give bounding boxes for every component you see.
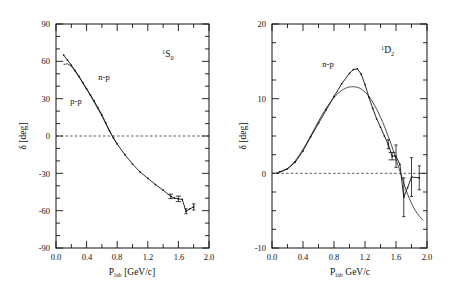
y-tick-label: 0 [46, 131, 50, 141]
chart-panel-1s0: δ [deg] 90 60 30 0 -30 -60 -90 0.0 0.4 0… [0, 0, 230, 294]
x-tick-label: 1.2 [143, 252, 154, 262]
curve-annotations-right: n-p [322, 59, 333, 69]
data-point [333, 96, 335, 98]
wave-label-sub: 2 [391, 50, 394, 57]
series-np-left [64, 55, 194, 211]
x-axis-title-sub: lab [335, 271, 343, 278]
data-point [74, 70, 76, 72]
y-tick-label: -60 [39, 206, 50, 216]
plot-svg-1d2: δ [deg] 20 10 0 -10 0.0 0.4 0.8 1.2 1.6 … [230, 0, 460, 294]
errorbars-right [387, 140, 421, 217]
figure-canvas: δ [deg] 90 60 30 0 -30 -60 -90 0.0 0.4 0… [0, 0, 460, 294]
y-axis-title-right: δ [deg] [238, 123, 248, 150]
y-tick-label: 0 [262, 169, 266, 179]
data-point [147, 177, 149, 179]
chart-panel-1d2: δ [deg] 20 10 0 -10 0.0 0.4 0.8 1.2 1.6 … [230, 0, 460, 294]
data-point [341, 83, 343, 85]
data-point [372, 108, 374, 110]
data-point [90, 94, 92, 96]
x-axis-title-sub: lab [114, 271, 122, 278]
data-point [181, 199, 183, 201]
data-point [407, 187, 409, 189]
x-tick-labels-left: 0.0 0.4 0.8 1.2 1.6 2.0 [51, 252, 215, 262]
data-point [279, 171, 281, 173]
series-np-right [280, 69, 420, 197]
x-tick-label: 1.6 [391, 252, 402, 262]
svg-text:Plab GeV/c: Plab GeV/c [330, 267, 370, 278]
data-point [155, 184, 157, 186]
data-point [105, 122, 107, 124]
data-point [310, 136, 312, 138]
data-point [63, 54, 65, 56]
data-point [376, 118, 378, 120]
x-axis-title-unit: [GeV/c] [124, 267, 155, 277]
y-tick-label: 30 [42, 94, 51, 104]
y-axis-title-left: δ [deg] [18, 123, 28, 150]
series-theory-right [276, 87, 423, 221]
data-point [67, 59, 69, 61]
x-tick-label: 2.0 [422, 252, 433, 262]
x-axis-title-left: Plab [GeV/c] [109, 267, 156, 278]
curve-annotations-left: n-p p-p [70, 72, 109, 106]
x-tick-label: 1.6 [174, 252, 185, 262]
x-tick-label: 0.0 [267, 252, 278, 262]
svg-text:1D2: 1D2 [381, 44, 394, 57]
data-point [132, 163, 134, 165]
data-point [356, 68, 358, 70]
x-tick-label: 0.4 [298, 252, 309, 262]
y-tick-label: 10 [258, 94, 267, 104]
series-group-right [276, 68, 423, 220]
data-point [353, 69, 355, 71]
data-point [287, 168, 289, 170]
x-tick-label: 1.2 [360, 252, 371, 262]
data-point [70, 64, 72, 66]
svg-text:Plab [GeV/c]: Plab [GeV/c] [109, 267, 156, 278]
curve-label-np: n-p [98, 72, 109, 82]
data-point [86, 88, 88, 90]
data-point [325, 109, 327, 111]
y-tick-labels-left: 90 60 30 0 -30 -60 -90 [39, 19, 50, 253]
series-np-left-markers [63, 54, 195, 212]
svg-text:1S0: 1S0 [162, 48, 174, 61]
x-tick-label: 2.0 [204, 252, 215, 262]
y-axis-title-left-text: δ [deg] [18, 123, 28, 150]
data-point [302, 150, 304, 152]
x-tick-label: 0.4 [82, 252, 93, 262]
data-point [364, 84, 366, 86]
y-tick-label: -30 [39, 169, 50, 179]
curve-label-np: n-p [322, 59, 333, 69]
data-point [78, 75, 80, 77]
x-tick-label: 0.0 [51, 252, 62, 262]
series-group-left [63, 54, 196, 214]
data-point [109, 130, 111, 132]
y-axis-title-right-text: δ [deg] [238, 123, 248, 150]
data-point [174, 197, 176, 199]
y-tick-label: 60 [42, 56, 51, 66]
data-point [399, 164, 401, 166]
data-point [349, 72, 351, 74]
data-point [82, 82, 84, 84]
wave-label-sub: 0 [170, 54, 173, 61]
plot-svg-1s0: δ [deg] 90 60 30 0 -30 -60 -90 0.0 0.4 0… [0, 0, 230, 294]
x-tick-label: 0.8 [112, 252, 123, 262]
data-point [101, 114, 103, 116]
x-axis-title-unit: GeV/c [345, 267, 370, 277]
wave-label-1s0: 1S0 [162, 48, 174, 61]
data-point [360, 73, 362, 75]
data-point [93, 100, 95, 102]
data-point [189, 208, 191, 210]
y-tick-labels-right: 20 10 0 -10 [255, 19, 266, 253]
wave-label-1d2: 1D2 [381, 44, 394, 57]
data-point [318, 122, 320, 124]
y-tick-label: -90 [39, 243, 50, 253]
data-point [139, 171, 141, 173]
data-point [124, 154, 126, 156]
series-np-right-markers [279, 68, 420, 198]
x-tick-label: 0.8 [329, 252, 340, 262]
curve-label-pp: p-p [70, 96, 81, 106]
y-tick-label: 90 [42, 19, 51, 29]
data-point [380, 126, 382, 128]
data-point [116, 143, 118, 145]
data-point [97, 107, 99, 109]
x-tick-labels-right: 0.0 0.4 0.8 1.2 1.6 2.0 [267, 252, 433, 262]
